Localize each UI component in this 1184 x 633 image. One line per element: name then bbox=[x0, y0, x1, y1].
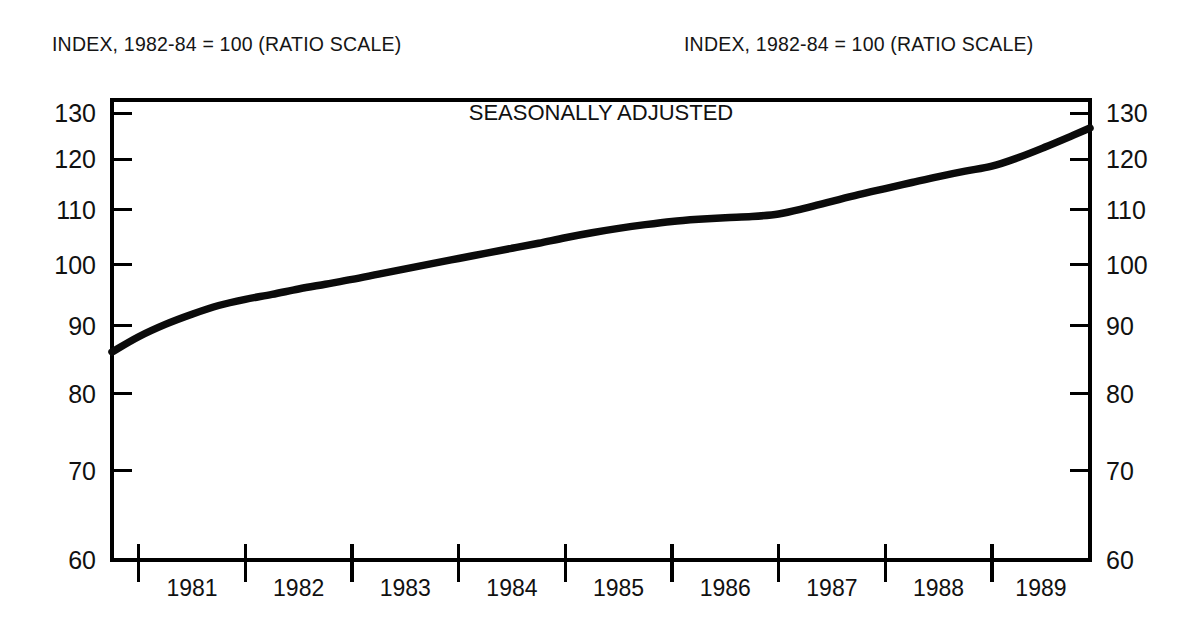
plot-title: SEASONALLY ADJUSTED bbox=[469, 100, 734, 125]
x-axis-label-1984: 1984 bbox=[486, 575, 537, 601]
x-axis-label-1989: 1989 bbox=[1015, 575, 1066, 601]
line-chart: 60708090100110120130 6070809010011012013… bbox=[0, 0, 1184, 633]
right-tick-label-120: 120 bbox=[1106, 145, 1148, 173]
left-tick-label-130: 130 bbox=[54, 99, 96, 127]
right-tick-label-80: 80 bbox=[1106, 380, 1134, 408]
chart-canvas: 60708090100110120130 6070809010011012013… bbox=[0, 0, 1184, 633]
cpi-series-line bbox=[112, 128, 1090, 352]
x-axis-label-1988: 1988 bbox=[913, 575, 964, 601]
right-axis-ticks bbox=[1070, 113, 1090, 471]
x-axis-year-labels: 198119821983198419851986198719881989 bbox=[166, 575, 1066, 601]
right-tick-label-90: 90 bbox=[1106, 312, 1134, 340]
plot-border bbox=[112, 100, 1090, 560]
x-axis-label-1983: 1983 bbox=[380, 575, 431, 601]
left-axis-tick-labels: 60708090100110120130 bbox=[54, 99, 96, 574]
x-axis-label-1986: 1986 bbox=[700, 575, 751, 601]
left-tick-label-80: 80 bbox=[68, 380, 96, 408]
x-axis-label-1985: 1985 bbox=[593, 575, 644, 601]
x-axis-label-1981: 1981 bbox=[166, 575, 217, 601]
right-tick-label-110: 110 bbox=[1106, 196, 1146, 224]
right-axis-tick-labels: 60708090100110120130 bbox=[1106, 99, 1148, 574]
chart-page: INDEX, 1982-84 = 100 (RATIO SCALE) INDEX… bbox=[0, 0, 1184, 633]
left-tick-label-60: 60 bbox=[68, 546, 96, 574]
left-tick-label-120: 120 bbox=[54, 145, 96, 173]
x-axis-ticks bbox=[139, 544, 992, 582]
right-tick-label-100: 100 bbox=[1106, 251, 1148, 279]
left-tick-label-110: 110 bbox=[56, 196, 96, 224]
right-tick-label-60: 60 bbox=[1106, 546, 1134, 574]
plot-frame bbox=[112, 100, 1090, 560]
left-axis-ticks bbox=[112, 113, 132, 471]
right-tick-label-70: 70 bbox=[1106, 457, 1134, 485]
left-tick-label-100: 100 bbox=[54, 251, 96, 279]
right-tick-label-130: 130 bbox=[1106, 99, 1148, 127]
left-tick-label-70: 70 bbox=[68, 457, 96, 485]
left-tick-label-90: 90 bbox=[68, 312, 96, 340]
x-axis-label-1987: 1987 bbox=[806, 575, 857, 601]
x-axis-label-1982: 1982 bbox=[273, 575, 324, 601]
